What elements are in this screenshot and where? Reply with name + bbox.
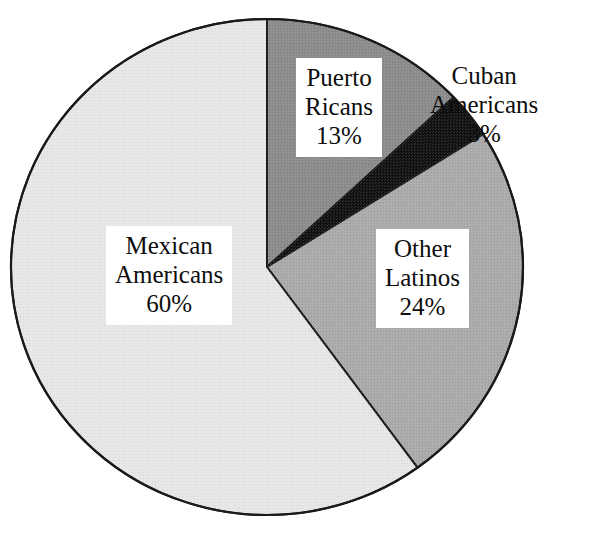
slice-label-line2: Americans: [115, 260, 223, 289]
slice-label-puerto-ricans: Puerto Ricans 13%: [296, 58, 382, 157]
slice-label-line1: Puerto: [305, 63, 373, 92]
slice-label-line2: Ricans: [305, 92, 373, 121]
slice-label-cuban-americans: Cuban Americans 3%: [430, 61, 538, 148]
slice-label-other-latinos: Other Latinos 24%: [376, 229, 469, 328]
slice-label-value: 13%: [305, 121, 373, 150]
slice-label-line1: Other: [385, 234, 460, 263]
slice-label-value: 3%: [430, 119, 538, 148]
pie-chart-figure: Mexican Americans 60% Puerto Ricans 13% …: [0, 0, 596, 537]
slice-label-mexican-americans: Mexican Americans 60%: [106, 226, 232, 325]
slice-label-value: 24%: [385, 292, 460, 321]
slice-label-line1: Cuban: [430, 61, 538, 90]
slice-label-line2: Latinos: [385, 263, 460, 292]
slice-label-line1: Mexican: [115, 231, 223, 260]
slice-label-value: 60%: [115, 289, 223, 318]
slice-label-line2: Americans: [430, 90, 538, 119]
